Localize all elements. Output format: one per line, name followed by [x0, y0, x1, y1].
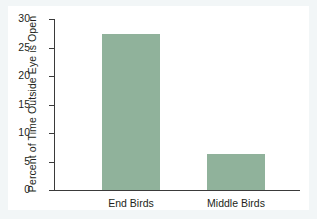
y-axis-tick-label: 15 [0, 99, 30, 110]
y-axis-tick-mark [49, 76, 54, 77]
y-axis-line [54, 19, 55, 190]
y-axis-tick-mark [49, 190, 54, 191]
y-axis-tick-mark [49, 105, 54, 106]
bar [102, 34, 160, 190]
y-axis-tick-mark [49, 48, 54, 49]
y-axis-tick-label: 0 [0, 184, 30, 195]
y-axis-tick-label: 30 [0, 13, 30, 24]
figure-container: Percent of Time Outside Eye is Open 0510… [0, 0, 317, 219]
x-axis-category-label: End Birds [71, 197, 191, 209]
y-axis-tick-label: 5 [0, 156, 30, 167]
y-axis-tick-label: 25 [0, 42, 30, 53]
bar [207, 154, 265, 190]
y-axis-tick-label: 20 [0, 70, 30, 81]
y-axis-tick-label: 10 [0, 127, 30, 138]
y-axis-tick-mark [49, 162, 54, 163]
plot-canvas: Percent of Time Outside Eye is Open 0510… [8, 6, 309, 210]
y-axis-tick-mark [49, 133, 54, 134]
x-axis-category-label: Middle Birds [176, 197, 296, 209]
x-axis-line [54, 190, 300, 191]
y-axis-tick-mark [49, 19, 54, 20]
